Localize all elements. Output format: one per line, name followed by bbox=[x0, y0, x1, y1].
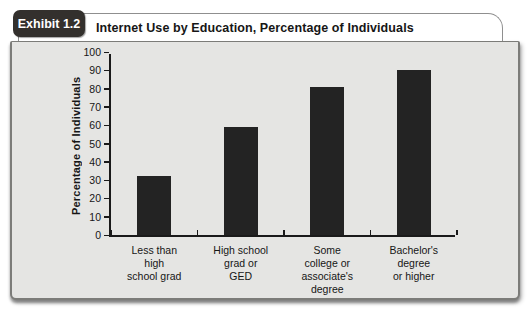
exhibit-figure: Exhibit 1.2 Internet Use by Education, P… bbox=[0, 0, 531, 317]
exhibit-badge: Exhibit 1.2 bbox=[13, 10, 85, 37]
y-axis-tick-label: 30 bbox=[69, 174, 101, 186]
plot-area: 0102030405060708090100Less than high sch… bbox=[109, 54, 455, 237]
x-axis-tick bbox=[283, 230, 285, 235]
bar-0 bbox=[137, 176, 171, 235]
chart-title: Internet Use by Education, Percentage of… bbox=[96, 21, 414, 35]
x-category-label: Bachelor's degree or higher bbox=[371, 244, 458, 283]
y-axis-tick bbox=[104, 161, 109, 163]
y-axis-tick-label: 10 bbox=[69, 211, 101, 223]
x-axis-tick bbox=[197, 230, 199, 235]
y-axis-tick bbox=[104, 125, 109, 127]
x-category-label: Some college or associate's degree bbox=[284, 244, 371, 296]
y-axis-tick-label: 20 bbox=[69, 192, 101, 204]
x-axis-tick bbox=[110, 230, 112, 235]
y-axis-tick bbox=[104, 52, 109, 54]
y-axis-tick bbox=[104, 216, 109, 218]
y-axis-tick bbox=[104, 143, 109, 145]
exhibit-badge-label: Exhibit 1.2 bbox=[18, 17, 81, 31]
y-axis-tick-label: 60 bbox=[69, 119, 101, 131]
y-axis-tick-label: 100 bbox=[69, 46, 101, 58]
chart-panel: Percentage of Individuals 01020304050607… bbox=[10, 41, 520, 300]
y-axis-tick-label: 90 bbox=[69, 64, 101, 76]
x-axis-tick bbox=[456, 230, 458, 235]
header-band: Internet Use by Education, Percentage of… bbox=[18, 13, 503, 41]
y-axis-tick bbox=[104, 70, 109, 72]
y-axis-tick bbox=[104, 88, 109, 90]
y-axis-tick-label: 0 bbox=[69, 229, 101, 241]
y-axis-tick-label: 70 bbox=[69, 101, 101, 113]
x-axis-tick bbox=[370, 230, 372, 235]
y-axis-tick-label: 50 bbox=[69, 138, 101, 150]
bar-1 bbox=[224, 127, 258, 235]
x-category-label: High school grad or GED bbox=[198, 244, 285, 283]
y-axis-tick bbox=[104, 235, 109, 237]
y-axis-tick bbox=[104, 180, 109, 182]
y-axis-tick-label: 80 bbox=[69, 83, 101, 95]
x-category-label: Less than high school grad bbox=[111, 244, 198, 283]
bar-3 bbox=[397, 70, 431, 235]
y-axis-tick bbox=[104, 198, 109, 200]
y-axis-tick-label: 40 bbox=[69, 156, 101, 168]
y-axis-tick bbox=[104, 106, 109, 108]
bar-2 bbox=[310, 87, 344, 235]
